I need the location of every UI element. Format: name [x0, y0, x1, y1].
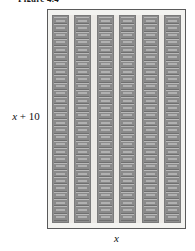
unit-tile	[144, 199, 157, 206]
height-constant: 10	[29, 110, 40, 122]
unit-tile	[166, 104, 179, 111]
unit-tile	[121, 184, 134, 191]
unit-tile	[121, 32, 134, 39]
unit-tile	[99, 24, 112, 31]
unit-tile	[166, 83, 179, 90]
unit-tile	[76, 39, 89, 46]
unit-tile	[144, 104, 157, 111]
unit-tile	[54, 134, 67, 141]
unit-tile	[166, 119, 179, 126]
unit-tile	[144, 163, 157, 170]
unit-tile	[76, 24, 89, 31]
tile-column	[142, 15, 159, 223]
unit-tile	[166, 206, 179, 213]
unit-tile	[121, 97, 134, 104]
unit-tile	[121, 141, 134, 148]
unit-tile	[166, 90, 179, 97]
unit-tile	[54, 199, 67, 206]
unit-tile	[144, 83, 157, 90]
unit-tile	[121, 61, 134, 68]
unit-tile	[76, 104, 89, 111]
unit-tile	[76, 119, 89, 126]
figure-root: Figure 4.4 x + 10 x	[0, 0, 195, 251]
unit-tile	[121, 17, 134, 24]
unit-tile	[144, 177, 157, 184]
unit-tile	[76, 155, 89, 162]
unit-tile	[54, 46, 67, 53]
unit-tile	[99, 32, 112, 39]
unit-tile	[166, 184, 179, 191]
unit-tile	[54, 53, 67, 60]
unit-tile	[99, 170, 112, 177]
height-operator: +	[17, 110, 29, 122]
unit-tile	[144, 170, 157, 177]
unit-tile	[121, 83, 134, 90]
unit-tile	[144, 141, 157, 148]
unit-tile	[144, 24, 157, 31]
unit-tile	[121, 192, 134, 199]
unit-tile	[99, 90, 112, 97]
unit-tile	[99, 97, 112, 104]
unit-tile	[99, 119, 112, 126]
unit-tile	[121, 46, 134, 53]
unit-tile	[144, 90, 157, 97]
tile-column	[74, 15, 91, 223]
unit-tile	[76, 214, 89, 221]
unit-tile	[54, 155, 67, 162]
unit-tile	[121, 104, 134, 111]
unit-tile	[166, 61, 179, 68]
unit-tile	[54, 112, 67, 119]
unit-tile	[121, 68, 134, 75]
unit-tile	[144, 39, 157, 46]
unit-tile	[144, 214, 157, 221]
unit-tile	[54, 148, 67, 155]
unit-tile	[166, 75, 179, 82]
unit-tile	[54, 24, 67, 31]
unit-tile	[144, 119, 157, 126]
dimension-label-width: x	[47, 232, 186, 244]
unit-tile	[54, 104, 67, 111]
unit-tile	[54, 39, 67, 46]
unit-tile	[166, 170, 179, 177]
unit-tile	[99, 39, 112, 46]
unit-tile	[144, 53, 157, 60]
unit-tile	[166, 192, 179, 199]
unit-tile	[121, 119, 134, 126]
unit-tile	[54, 177, 67, 184]
unit-tile	[76, 184, 89, 191]
unit-tile	[121, 39, 134, 46]
unit-tile	[121, 214, 134, 221]
unit-tile	[121, 148, 134, 155]
unit-tile	[99, 206, 112, 213]
unit-tile	[99, 155, 112, 162]
unit-tile	[99, 112, 112, 119]
unit-tile	[144, 75, 157, 82]
unit-tile	[144, 184, 157, 191]
tile-column	[164, 15, 181, 223]
unit-tile	[144, 17, 157, 24]
tile-grid	[52, 15, 181, 223]
unit-tile	[121, 75, 134, 82]
unit-tile	[121, 134, 134, 141]
unit-tile	[54, 17, 67, 24]
unit-tile	[144, 32, 157, 39]
unit-tile	[166, 199, 179, 206]
unit-tile	[54, 163, 67, 170]
unit-tile	[54, 61, 67, 68]
unit-tile	[76, 199, 89, 206]
unit-tile	[54, 68, 67, 75]
unit-tile	[166, 126, 179, 133]
unit-tile	[99, 68, 112, 75]
unit-tile	[144, 68, 157, 75]
unit-tile	[121, 163, 134, 170]
unit-tile	[99, 177, 112, 184]
unit-tile	[121, 199, 134, 206]
tile-column	[119, 15, 136, 223]
unit-tile	[99, 46, 112, 53]
unit-tile	[54, 206, 67, 213]
dimension-label-height: x + 10	[8, 110, 44, 122]
figure-caption: Figure 4.4	[18, 0, 59, 2]
unit-tile	[121, 90, 134, 97]
unit-tile	[166, 24, 179, 31]
unit-tile	[166, 46, 179, 53]
